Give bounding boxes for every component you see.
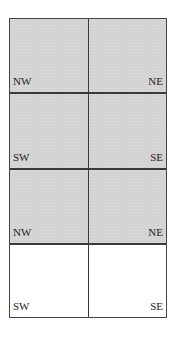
quadrant-grid: NW NE SW SE NW NE SW SE xyxy=(9,18,167,318)
grid-border xyxy=(9,18,167,318)
